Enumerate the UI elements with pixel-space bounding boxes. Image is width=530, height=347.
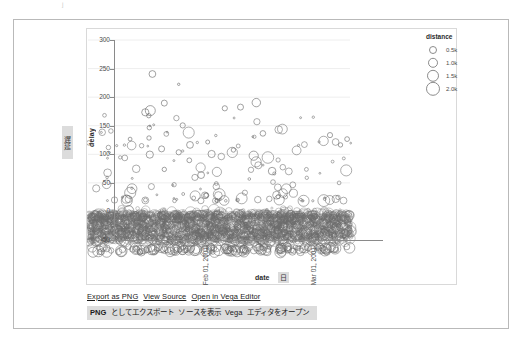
legend-entry[interactable]: 1.5k (424, 69, 480, 82)
legend-circle-icon (429, 46, 437, 54)
japanese-link-token[interactable]: Vega (225, 308, 243, 317)
scatter-point (198, 198, 204, 204)
scatter-plot-canvas[interactable] (87, 29, 456, 284)
y-tick-label: 300 (99, 36, 110, 43)
scatter-point (172, 184, 174, 186)
scatter-point (327, 133, 332, 138)
y-tick (110, 211, 114, 212)
y-tick (110, 240, 114, 241)
scatter-point (127, 141, 136, 150)
japanese-link-token[interactable]: PNG (90, 308, 107, 317)
scatter-point (260, 131, 266, 137)
scatter-point (304, 167, 308, 171)
japanese-link-token[interactable]: ソースを表示 (178, 308, 221, 317)
scatter-point (200, 188, 202, 190)
scatter-point (215, 134, 217, 136)
legend-entry[interactable]: 2.0k (424, 82, 480, 95)
x-axis-title: date (255, 274, 269, 281)
scatter-point (147, 145, 149, 147)
scatter-point (119, 156, 122, 159)
y-tick-label: 150 (99, 122, 110, 129)
artifact-mark: ʲ (62, 2, 72, 11)
scatter-point (340, 197, 347, 204)
screenshot-root: ʲ 遅延 300250200150100500-50 delay Feb 01,… (0, 0, 530, 347)
action-links-japanese[interactable]: PNGとしてエクスポートソースを表示Vegaエディタをオープン (87, 306, 317, 320)
scatter-point (128, 137, 132, 141)
scatter-point (305, 176, 308, 179)
scatter-point (227, 147, 237, 157)
open-vega-editor-link[interactable]: Open in Vega Editor (191, 292, 260, 301)
scatter-point (271, 207, 273, 209)
y-tick (110, 126, 114, 127)
scatter-point (159, 146, 165, 152)
scatter-point (183, 127, 194, 138)
scatter-point (187, 158, 192, 163)
x-tick-label: Feb 01, 2001 (202, 247, 209, 285)
scatter-point (342, 157, 345, 160)
size-legend: distance 0.5k1.0k1.5k2.0k (424, 33, 480, 95)
scatter-point (238, 104, 244, 110)
scatter-point (196, 141, 198, 143)
export-png-link[interactable]: Export as PNG (87, 292, 138, 301)
japanese-link-token[interactable]: エディタをオープン (247, 308, 310, 317)
action-links-english[interactable]: Export as PNGView SourceOpen in Vega Edi… (87, 292, 265, 301)
scatter-point (222, 106, 227, 111)
scatter-point (231, 148, 235, 152)
scatter-point (116, 145, 118, 147)
scatter-point (192, 196, 196, 200)
y-axis-title: delay (88, 128, 95, 147)
legend-entry[interactable]: 0.5k (424, 43, 480, 56)
scatter-point (187, 142, 194, 149)
legend-circle-icon (426, 81, 440, 95)
legend-entry[interactable]: 1.0k (424, 56, 480, 69)
y-tick (110, 183, 114, 184)
scatter-point (350, 142, 352, 144)
scatter-point (173, 160, 175, 162)
y-tick (110, 154, 114, 155)
scatter-point (300, 117, 302, 119)
vega-chart-view[interactable] (86, 28, 457, 285)
scatter-point (198, 172, 205, 179)
scatter-point (262, 164, 264, 166)
scatter-point (182, 193, 185, 196)
scatter-point (196, 163, 205, 172)
y-axis-title-japanese: 遅延 (62, 126, 73, 159)
scatter-point (274, 195, 284, 205)
legend-entries: 0.5k1.0k1.5k2.0k (424, 43, 480, 95)
x-axis-title-japanese: 日 (278, 272, 289, 283)
scatter-point (212, 167, 221, 176)
scatter-point (318, 195, 330, 207)
scatter-point (341, 165, 352, 176)
scatter-point (267, 196, 273, 202)
scatter-point (345, 137, 350, 142)
scatter-point (136, 207, 140, 211)
scatter-point (119, 212, 121, 214)
scatter-point (236, 144, 240, 148)
scatter-point (161, 100, 167, 106)
scatter-point (338, 143, 342, 147)
scatter-point (262, 152, 274, 164)
scatter-point (148, 184, 154, 190)
x-tick-label: Mar 01, 2001 (310, 247, 317, 285)
scatter-point (255, 162, 262, 169)
view-source-link[interactable]: View Source (143, 292, 186, 301)
y-tick (110, 40, 114, 41)
x-tick (313, 240, 314, 244)
scatter-point (312, 200, 314, 202)
scatter-point (312, 116, 314, 118)
x-axis-line (108, 240, 383, 241)
legend-circle-icon (428, 57, 438, 67)
scatter-point (149, 71, 156, 78)
scatter-point (248, 178, 251, 181)
scatter-point (192, 174, 198, 180)
scatter-point (123, 144, 125, 146)
x-tick (205, 240, 206, 244)
y-tick (110, 69, 114, 70)
legend-circle-icon (427, 69, 439, 81)
japanese-link-token[interactable]: としてエクスポート (111, 308, 175, 317)
scatter-point (319, 136, 328, 145)
scatter-point (253, 135, 256, 138)
scatter-point (131, 177, 133, 179)
scatter-point (122, 155, 128, 161)
scatter-point (139, 143, 143, 147)
